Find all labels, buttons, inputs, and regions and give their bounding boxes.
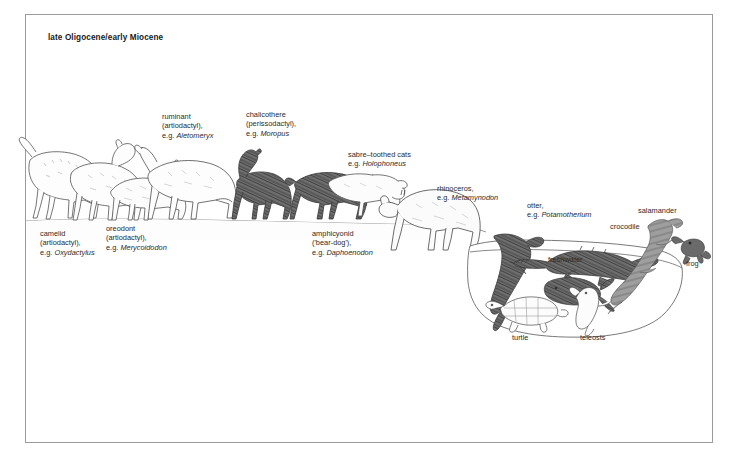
label-camelid-line-1: camelid xyxy=(40,229,65,238)
genus-moropus: Moropus xyxy=(260,129,289,138)
genus-daphoenodon: Daphoenodon xyxy=(326,248,372,257)
label-ruminant-line-3: e.g. Aletomeryx xyxy=(162,131,213,140)
label-chalicothere-line-1: chalicothere xyxy=(246,110,286,119)
label-freshwater: freshwater xyxy=(548,255,583,264)
label-crocodile: crocodile xyxy=(610,222,640,231)
genus-oxydactylus: Oxydactylus xyxy=(54,248,94,257)
label-oreodont-line-1: oreodont xyxy=(106,224,135,233)
genus-holophoneus: Holophoneus xyxy=(362,159,406,168)
figure-title: late Oligocene/early Miocene xyxy=(48,33,163,42)
label-oreodont-line-2: (artiodactyl), xyxy=(106,233,147,242)
label-amphicyonid: amphicyonid ('bear-dog'), e.g. Daphoenod… xyxy=(312,229,373,257)
label-chalicothere-line-3: e.g. Moropus xyxy=(246,129,289,138)
label-turtle: turtle xyxy=(512,333,528,342)
label-rhinoceros: rhinoceros, e.g. Metamynodon xyxy=(437,184,498,203)
label-sabre-toothed-cats: sabre–toothed cats e.g. Holophoneus xyxy=(348,150,411,169)
label-otter-line-1: otter, xyxy=(527,201,543,210)
label-chalicothere: chalicothere (perissodactyl), e.g. Morop… xyxy=(246,110,296,138)
genus-aletomeryx: Aletomeryx xyxy=(176,131,213,140)
label-camelid-line-3: e.g. Oxydactylus xyxy=(40,248,95,257)
label-chalicothere-line-2: (perissodactyl), xyxy=(246,119,296,128)
label-frog: frog xyxy=(686,259,699,268)
label-salamander: salamander xyxy=(638,206,677,215)
label-camelid-line-2: (artiodactyl), xyxy=(40,238,81,247)
label-ruminant-line-2: (artiodactyl), xyxy=(162,121,203,130)
label-sabre-toothed-cats-line-2: e.g. Holophoneus xyxy=(348,159,406,168)
label-camelid: camelid (artiodactyl), e.g. Oxydactylus xyxy=(40,229,95,257)
genus-merycoidodon: Merycoidodon xyxy=(120,243,166,252)
label-otter-line-2: e.g. Potamotherium xyxy=(527,210,592,219)
label-sabre-toothed-cats-line-1: sabre–toothed cats xyxy=(348,150,411,159)
label-otter: otter, e.g. Potamotherium xyxy=(527,201,592,220)
label-ruminant-line-1: ruminant xyxy=(162,112,191,121)
label-rhinoceros-line-1: rhinoceros, xyxy=(437,184,474,193)
label-oreodont: oreodont (artiodactyl), e.g. Merycoidodo… xyxy=(106,224,167,252)
genus-metamynodon: Metamynodon xyxy=(451,193,498,202)
label-rhinoceros-line-2: e.g. Metamynodon xyxy=(437,193,498,202)
label-amphicyonid-line-1: amphicyonid xyxy=(312,229,354,238)
label-teleosts: teleosts xyxy=(580,333,605,342)
genus-potamotherium: Potamotherium xyxy=(541,210,591,219)
label-ruminant: ruminant (artiodactyl), e.g. Aletomeryx xyxy=(162,112,213,140)
label-oreodont-line-3: e.g. Merycoidodon xyxy=(106,243,167,252)
figure-scene: late Oligocene/early Miocene xyxy=(0,0,736,460)
label-amphicyonid-line-2: ('bear-dog'), xyxy=(312,238,351,247)
label-amphicyonid-line-3: e.g. Daphoenodon xyxy=(312,248,373,257)
